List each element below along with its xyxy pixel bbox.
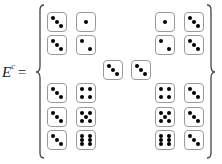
die-face-3 <box>103 60 123 80</box>
die-face-1 <box>155 12 175 32</box>
pip-icon <box>188 87 192 91</box>
pip-icon <box>196 119 200 123</box>
pip-icon <box>143 72 147 76</box>
pip-icon <box>55 20 59 24</box>
die-face-3 <box>184 130 204 150</box>
right-brace-icon <box>205 0 217 164</box>
pip-icon <box>163 20 167 24</box>
set-label: Ec= <box>2 64 26 81</box>
pip-icon <box>88 119 92 123</box>
pip-icon <box>115 72 119 76</box>
pip-icon <box>167 142 171 146</box>
pip-icon <box>80 95 84 99</box>
pip-icon <box>196 142 200 146</box>
pip-icon <box>167 95 171 99</box>
pip-icon <box>107 64 111 68</box>
die-face-3 <box>47 107 67 127</box>
pip-icon <box>159 111 163 115</box>
pip-icon <box>88 47 92 51</box>
die-face-3 <box>47 12 67 32</box>
die-face-3 <box>47 130 67 150</box>
die-face-4 <box>76 83 96 103</box>
pip-icon <box>192 20 196 24</box>
pip-icon <box>196 24 200 28</box>
pip-icon <box>59 24 63 28</box>
pip-icon <box>59 119 63 123</box>
die-face-3 <box>47 83 67 103</box>
die-face-5 <box>76 107 96 127</box>
pip-icon <box>84 20 88 24</box>
pip-icon <box>55 115 59 119</box>
pip-icon <box>88 87 92 91</box>
die-face-3 <box>47 35 67 55</box>
pip-icon <box>80 111 84 115</box>
die-face-1 <box>76 12 96 32</box>
die-face-6 <box>76 130 96 150</box>
pip-icon <box>51 111 55 115</box>
pip-icon <box>192 91 196 95</box>
pip-icon <box>88 111 92 115</box>
pip-icon <box>196 95 200 99</box>
pip-icon <box>192 115 196 119</box>
pip-icon <box>51 16 55 20</box>
pip-icon <box>139 68 143 72</box>
die-face-3 <box>184 83 204 103</box>
pip-icon <box>88 142 92 146</box>
pip-icon <box>159 142 163 146</box>
pip-icon <box>59 142 63 146</box>
pip-icon <box>80 87 84 91</box>
pip-icon <box>80 142 84 146</box>
pip-icon <box>188 39 192 43</box>
pip-icon <box>196 47 200 51</box>
pip-icon <box>192 138 196 142</box>
pip-icon <box>80 119 84 123</box>
die-face-2 <box>155 35 175 55</box>
die-face-6 <box>155 130 175 150</box>
pip-icon <box>192 43 196 47</box>
die-face-3 <box>184 35 204 55</box>
pip-icon <box>167 47 171 51</box>
pip-icon <box>88 95 92 99</box>
pip-icon <box>51 87 55 91</box>
equals-sign: = <box>18 64 26 80</box>
die-face-3 <box>131 60 151 80</box>
die-face-4 <box>155 83 175 103</box>
pip-icon <box>84 115 88 119</box>
pip-icon <box>188 16 192 20</box>
pip-icon <box>55 43 59 47</box>
left-brace-icon <box>34 0 46 164</box>
pip-icon <box>135 64 139 68</box>
pip-icon <box>188 111 192 115</box>
die-face-5 <box>155 107 175 127</box>
pip-icon <box>163 115 167 119</box>
pip-icon <box>111 68 115 72</box>
pip-icon <box>55 138 59 142</box>
complement-superscript: c <box>11 62 15 71</box>
die-face-3 <box>184 12 204 32</box>
pip-icon <box>59 47 63 51</box>
pip-icon <box>167 111 171 115</box>
pip-icon <box>159 119 163 123</box>
pip-icon <box>159 39 163 43</box>
die-face-3 <box>184 107 204 127</box>
die-face-2 <box>76 35 96 55</box>
pip-icon <box>55 91 59 95</box>
pip-icon <box>51 39 55 43</box>
pip-icon <box>188 134 192 138</box>
set-name: E <box>2 64 11 80</box>
pip-icon <box>167 119 171 123</box>
pip-icon <box>59 95 63 99</box>
pip-icon <box>167 87 171 91</box>
pip-icon <box>159 95 163 99</box>
pip-icon <box>159 87 163 91</box>
pip-icon <box>51 134 55 138</box>
pip-icon <box>80 39 84 43</box>
